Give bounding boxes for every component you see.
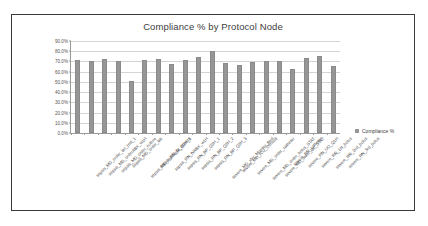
bar-slot: [152, 41, 165, 133]
screenshot-root: Compliance % by Protocol Node 0.0%10.0%2…: [0, 0, 428, 226]
bar[interactable]: [102, 59, 107, 133]
bar[interactable]: [142, 60, 147, 133]
bar-slot: [71, 41, 84, 133]
y-axis-tick-label: 20.0%: [55, 110, 68, 115]
bar-slot: [179, 41, 192, 133]
bar-slot: [98, 41, 111, 133]
bar[interactable]: [89, 61, 94, 133]
bar-slot: [259, 41, 272, 133]
x-axis-tick-mark: [71, 133, 72, 135]
bar-slot: [273, 41, 286, 133]
legend-swatch-icon: [355, 129, 359, 133]
x-axis-tick-mark: [327, 133, 328, 135]
x-axis-tick-mark: [313, 133, 314, 135]
bar[interactable]: [196, 57, 201, 133]
chart-container[interactable]: Compliance % by Protocol Node 0.0%10.0%2…: [11, 14, 415, 211]
bar-slot: [165, 41, 178, 133]
x-axis-tick-mark: [300, 133, 301, 135]
bar-slot: [246, 41, 259, 133]
x-axis-tick-mark: [179, 133, 180, 135]
bar-slot: [192, 41, 205, 133]
bar[interactable]: [290, 69, 295, 133]
x-axis-tick-mark: [98, 133, 99, 135]
x-axis-tick-mark: [246, 133, 247, 135]
bar[interactable]: [250, 62, 255, 133]
chart-legend: Compliance %: [355, 128, 394, 134]
x-axis-tick-mark: [111, 133, 112, 135]
y-axis-tick-label: 90.0%: [55, 39, 68, 44]
bar[interactable]: [169, 64, 174, 134]
x-axis-tick-mark: [84, 133, 85, 135]
bar-slot: [286, 41, 299, 133]
bar[interactable]: [304, 58, 309, 133]
bar-slot: [111, 41, 124, 133]
y-axis-tick-label: 80.0%: [55, 49, 68, 54]
y-axis-tick-label: 30.0%: [55, 100, 68, 105]
bar[interactable]: [183, 60, 188, 133]
x-axis-tick-label: sepsis_MD_order_lac_test_1: [95, 136, 137, 178]
x-axis-tick-mark: [259, 133, 260, 135]
bar-slot: [84, 41, 97, 133]
y-axis-tick-label: 10.0%: [55, 120, 68, 125]
bar-slot: [327, 41, 340, 133]
y-axis-tick-label: 70.0%: [55, 59, 68, 64]
chart-title: Compliance % by Protocol Node: [12, 21, 414, 32]
bar[interactable]: [116, 61, 121, 133]
bar[interactable]: [210, 51, 215, 133]
bar[interactable]: [237, 65, 242, 133]
bar[interactable]: [129, 81, 134, 133]
legend-label: Compliance %: [362, 128, 394, 134]
x-axis-tick-mark: [152, 133, 153, 135]
bar[interactable]: [264, 61, 269, 133]
bar[interactable]: [156, 59, 161, 133]
x-axis-tick-mark: [273, 133, 274, 135]
x-axis-tick-mark: [206, 133, 207, 135]
y-axis-tick-label: 50.0%: [55, 79, 68, 84]
x-axis-tick-mark: [165, 133, 166, 135]
bar[interactable]: [75, 60, 80, 133]
bar-series: [71, 41, 340, 133]
x-axis-tick-mark: [138, 133, 139, 135]
bar-slot: [300, 41, 313, 133]
bar-slot: [206, 41, 219, 133]
bar[interactable]: [277, 61, 282, 133]
bar-slot: [219, 41, 232, 133]
bar-slot: [125, 41, 138, 133]
y-axis-tick-label: 40.0%: [55, 90, 68, 95]
plot-area: 0.0%10.0%20.0%30.0%40.0%50.0%60.0%70.0%8…: [70, 41, 340, 134]
bar-slot: [313, 41, 326, 133]
bar-slot: [138, 41, 151, 133]
x-axis-tick-mark: [219, 133, 220, 135]
y-axis-tick-label: 0.0%: [58, 131, 68, 136]
x-axis-tick-mark: [192, 133, 193, 135]
x-axis-tick-label: severe_MD_order_bolus_STAT: [271, 136, 316, 181]
bar-slot: [232, 41, 245, 133]
x-axis-tick-mark: [125, 133, 126, 135]
bar[interactable]: [331, 66, 336, 133]
bar[interactable]: [317, 56, 322, 133]
y-axis-tick-label: 60.0%: [55, 69, 68, 74]
x-axis-tick-mark: [232, 133, 233, 135]
x-axis-tick-mark: [286, 133, 287, 135]
bar[interactable]: [223, 63, 228, 133]
